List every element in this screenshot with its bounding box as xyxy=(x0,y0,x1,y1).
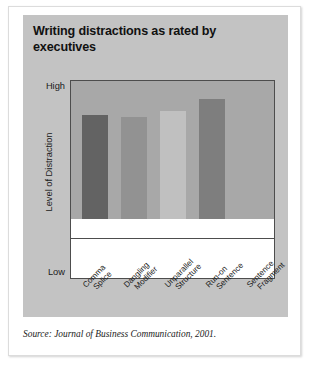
figure-card: Writing distractions as rated by executi… xyxy=(8,6,301,356)
bar-dangling-modifier xyxy=(121,117,147,219)
bar-run-on-sentence xyxy=(199,99,225,219)
source-caption: Source: Journal of Business Communicatio… xyxy=(23,329,216,339)
bar-series xyxy=(71,81,274,219)
gridline xyxy=(71,238,274,239)
y-axis-tick-high: High xyxy=(31,81,65,91)
x-axis-labels: CommaSpliceDanglingModifierUnparallelStr… xyxy=(70,281,275,325)
chart-panel: Writing distractions as rated by executi… xyxy=(23,15,288,317)
plot-area xyxy=(70,80,275,279)
bar-unparallel-structure xyxy=(160,111,186,219)
y-axis-tick-low: Low xyxy=(31,267,65,277)
bar-comma-splice xyxy=(82,115,108,218)
y-axis-title: Level of Distraction xyxy=(44,112,54,232)
chart-title: Writing distractions as rated by executi… xyxy=(33,24,268,55)
